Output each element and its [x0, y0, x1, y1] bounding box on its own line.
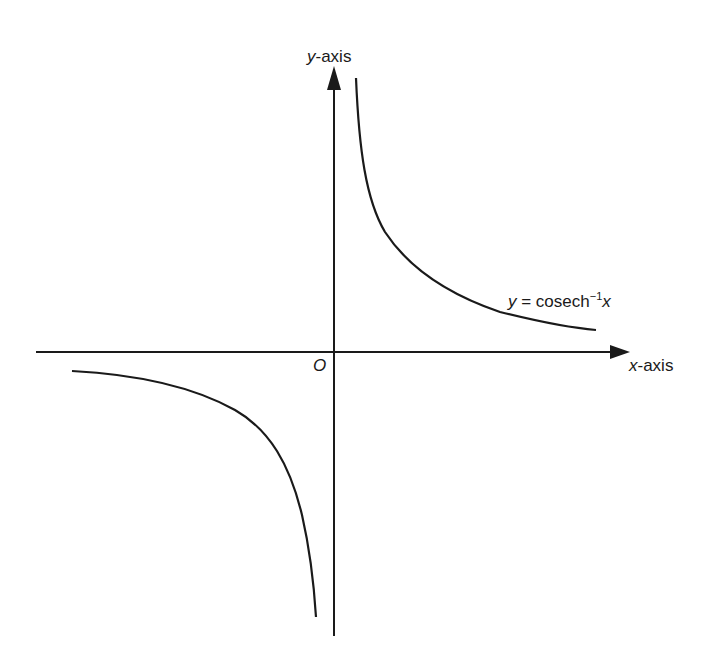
curve-label-eq: = cosech [517, 292, 590, 311]
origin-label: O [313, 356, 326, 376]
y-axis-label: y-axis [307, 47, 351, 67]
x-axis-arrow-icon [610, 345, 630, 359]
x-axis-label-var: x [629, 356, 638, 375]
y-axis-label-text: -axis [316, 47, 352, 66]
curve-label: y = cosech−1x [508, 292, 611, 312]
x-axis-label: x-axis [629, 356, 673, 376]
curve-label-lhs: y [508, 292, 517, 311]
graph-canvas [0, 0, 709, 664]
x-axis-label-text: -axis [638, 356, 674, 375]
curve-label-sup: −1 [590, 290, 603, 302]
y-axis-arrow-icon [327, 66, 341, 90]
curve-negative-branch [72, 371, 316, 617]
y-axis-label-var: y [307, 47, 316, 66]
curve-label-rhs: x [602, 292, 611, 311]
